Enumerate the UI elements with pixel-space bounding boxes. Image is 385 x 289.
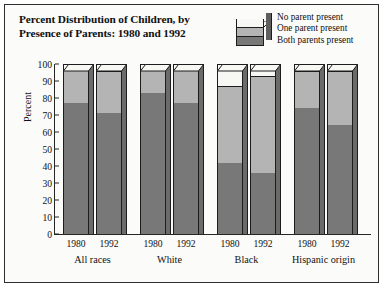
bar-top-cap [63,58,94,65]
y-tick-label-30: 30 [42,178,52,189]
bar-top-cap [96,58,127,65]
legend-item-one-parent: One parent present [277,23,353,34]
x-tick-year-7: 1992 [320,238,360,249]
bar-segment-both-parents [217,163,243,234]
bar-white-1992 [173,64,204,234]
bar-side-face [89,64,94,234]
bar-side-face [243,64,248,234]
x-tick-year-3: 1992 [166,238,206,249]
y-tick-label-80: 80 [42,93,52,104]
bar-black-1980 [217,64,248,234]
bar-top-cap [217,58,248,65]
bar-top-cap [140,58,171,65]
y-tick-mark-80 [55,98,59,99]
bar-segment-one-parent [250,76,276,173]
x-group-label-hispanic-origin: Hispanic origin [274,254,374,265]
y-tick-label-10: 10 [42,212,52,223]
chart-title: Percent Distribution of Children, by Pre… [19,12,229,40]
bar-segment-both-parents [250,173,276,234]
legend-item-both-parents: Both parents present [277,35,353,46]
bar-segment-one-parent [217,86,243,163]
bar-side-face [122,64,127,234]
legend-item-no-parent: No parent present [277,12,353,23]
legend-swatch-stack [236,13,272,47]
y-tick-label-70: 70 [42,110,52,121]
chart-header: Percent Distribution of Children, by Pre… [5,5,378,53]
bar-segment-both-parents [63,103,89,234]
bar-side-face [166,64,171,234]
bar-segment-one-parent [327,71,353,125]
bar-all-races-1980 [63,64,94,234]
bar-segment-one-parent [173,69,199,103]
bar-white-1980 [140,64,171,234]
legend-labels: No parent present One parent present Bot… [277,12,353,46]
legend-swatch-side-0 [266,13,272,22]
legend-swatch-side-1 [266,22,272,31]
y-tick-mark-50 [55,149,59,150]
y-tick-label-90: 90 [42,76,52,87]
y-tick-label-50: 50 [42,144,52,155]
legend-swatch-no-parent [236,19,264,28]
bar-segment-both-parents [294,108,320,234]
bar-top-cap [327,58,358,65]
legend-swatch-side-2 [266,31,272,40]
bar-all-races-1992 [96,64,127,234]
x-tick-year-5: 1992 [243,238,283,249]
y-axis-label: Percent [22,92,33,122]
y-tick-mark-0 [55,234,59,235]
y-tick-mark-70 [55,115,59,116]
y-tick-mark-90 [55,81,59,82]
bar-top-cap [250,58,281,65]
bar-segment-both-parents [140,93,166,234]
bar-segment-one-parent [294,71,320,108]
y-tick-label-40: 40 [42,161,52,172]
x-tick-year-1: 1992 [89,238,129,249]
bar-segment-both-parents [96,113,122,234]
y-tick-label-20: 20 [42,195,52,206]
plot-area: Percent 0102030405060708090100 198019921… [54,64,371,235]
y-tick-mark-20 [55,200,59,201]
bar-segment-one-parent [63,69,89,103]
bar-segment-both-parents [327,125,353,234]
chart-figure: Percent Distribution of Children, by Pre… [4,4,379,283]
y-tick-mark-30 [55,183,59,184]
y-tick-label-0: 0 [47,229,52,240]
y-tick-label-100: 100 [38,59,52,70]
bar-side-face [320,64,325,234]
bar-black-1992 [250,64,281,234]
bar-hispanic-origin-1992 [327,64,358,234]
legend-swatch-both-parents [236,37,264,46]
bar-side-face [199,64,204,234]
bar-top-cap [294,58,325,65]
legend-swatch-one-parent [236,28,264,37]
y-tick-mark-10 [55,217,59,218]
bar-side-face [353,64,358,234]
bar-segment-both-parents [173,103,199,234]
bar-segment-one-parent [96,71,122,114]
bar-hispanic-origin-1980 [294,64,325,234]
y-tick-label-60: 60 [42,127,52,138]
y-tick-mark-40 [55,166,59,167]
bar-side-face [276,64,281,234]
bar-top-cap [173,58,204,65]
chart-legend: No parent present One parent present Bot… [236,12,376,48]
bar-segment-one-parent [140,69,166,93]
y-tick-mark-100 [55,64,59,65]
y-tick-mark-60 [55,132,59,133]
chart-title-line2: Presence of Parents: 1980 and 1992 [19,26,229,40]
chart-title-line1: Percent Distribution of Children, by [19,13,190,25]
